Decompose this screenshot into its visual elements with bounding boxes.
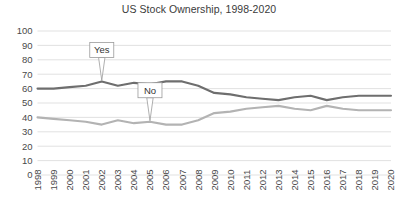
callout-pointer [99,57,105,80]
x-axis-tick-label: 2016 [321,169,332,190]
x-axis-tick-label: 2001 [80,169,91,190]
y-axis-tick-labels: 1009080706050403020100 [17,25,33,180]
y-axis-tick-label: 30 [22,126,33,137]
x-axis-tick-label: 2017 [337,169,348,190]
y-axis-tick-label: 50 [22,97,33,108]
chart-plot-area: 1009080706050403020100 19981999200020012… [0,0,398,214]
x-axis-tick-label: 2012 [257,169,268,190]
y-axis-tick-label: 80 [22,54,33,65]
x-axis-tick-label: 1998 [32,169,43,190]
x-axis-tick-label: 2004 [128,169,139,190]
x-axis-tick-label: 2000 [64,169,75,190]
series-line-no [38,106,392,125]
x-axis-tick-label: 2020 [385,169,396,190]
x-axis-tick-label: 2008 [193,169,204,190]
x-axis-tick-label: 2007 [177,169,188,190]
x-axis-tick-label: 2009 [209,169,220,190]
x-axis-tick-label: 2005 [144,169,155,190]
series-line-yes [38,81,392,100]
x-axis-tick-label: 2003 [112,169,123,190]
y-axis-tick-label: 90 [22,40,33,51]
y-axis-tick-label: 10 [22,155,33,166]
callout-yes: Yes [90,42,114,80]
callout-label-text: Yes [94,44,110,55]
x-axis-tick-label: 2011 [241,170,252,190]
x-axis-tick-label: 2002 [96,169,107,190]
callout-label-text: No [144,85,156,96]
x-axis-tick-label: 2010 [225,169,236,190]
y-axis-tick-label: 60 [22,83,33,94]
x-axis-tick-label: 1999 [48,169,59,190]
x-axis-tick-label: 2014 [289,169,300,190]
x-axis-tick-label: 2019 [369,169,380,190]
x-axis-tick-label: 2018 [353,169,364,190]
x-axis-tick-label: 2015 [305,169,316,190]
y-axis-tick-label: 20 [22,141,33,152]
chart-container: US Stock Ownership, 1998-2020 1009080706… [0,0,398,214]
callout-no: No [138,83,162,121]
x-axis-tick-label: 2013 [273,169,284,190]
y-axis-tick-label: 100 [17,25,33,36]
y-axis-tick-label: 70 [22,69,33,80]
x-axis-tick-labels: 1998199920002001200220032004200520062007… [32,169,397,190]
y-axis-tick-label: 40 [22,112,33,123]
x-axis-tick-label: 2006 [160,169,171,190]
